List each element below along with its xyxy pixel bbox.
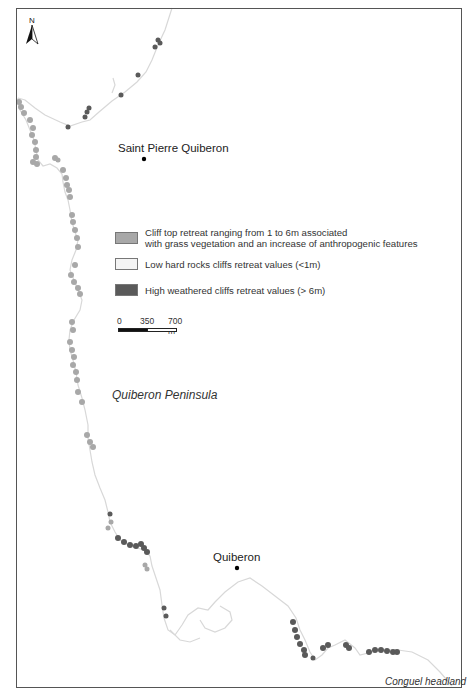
legend-label-medium-line2: with grass vegetation and an increase of… <box>145 238 418 249</box>
label-quiberon-peninsula: Quiberon Peninsula <box>112 388 217 402</box>
label-saint-pierre-quiberon: Saint Pierre Quiberon <box>118 142 229 154</box>
scale-bar-light <box>147 328 177 332</box>
legend-swatch-medium <box>115 232 138 244</box>
north-label: N <box>25 16 39 25</box>
legend-label-high: High weathered cliffs retreat values (> … <box>145 285 325 296</box>
north-arrow-icon <box>25 25 39 45</box>
label-quiberon: Quiberon <box>213 551 260 563</box>
legend-label-low: Low hard rocks cliffs retreat values (<1… <box>145 259 321 270</box>
legend-swatch-low <box>115 258 138 270</box>
scale-tick-350: 350 <box>140 316 154 326</box>
legend-item-high-retreat: High weathered cliffs retreat values (> … <box>115 283 460 303</box>
label-conguel-headland: Conguel headland <box>385 676 466 687</box>
scale-bar-dark <box>118 328 148 332</box>
north-arrow: N <box>25 16 39 49</box>
coastline <box>18 8 452 686</box>
scale-bar: 0 350 700 m <box>117 316 182 336</box>
coastline-map <box>0 0 475 697</box>
legend-label-medium-line1: Cliff top retreat ranging from 1 to 6m a… <box>145 227 347 238</box>
legend-item-low-retreat: Low hard rocks cliffs retreat values (<1… <box>115 257 460 283</box>
legend-swatch-high <box>115 284 138 296</box>
quiberon-dot <box>235 566 239 570</box>
high-retreat-segments <box>66 38 401 661</box>
legend: Cliff top retreat ranging from 1 to 6m a… <box>115 227 460 303</box>
scale-tick-700: 700 m <box>168 316 182 336</box>
saint-pierre-quiberon-dot <box>142 157 146 161</box>
legend-item-medium-retreat: Cliff top retreat ranging from 1 to 6m a… <box>115 227 460 257</box>
scale-tick-0: 0 <box>117 316 122 326</box>
